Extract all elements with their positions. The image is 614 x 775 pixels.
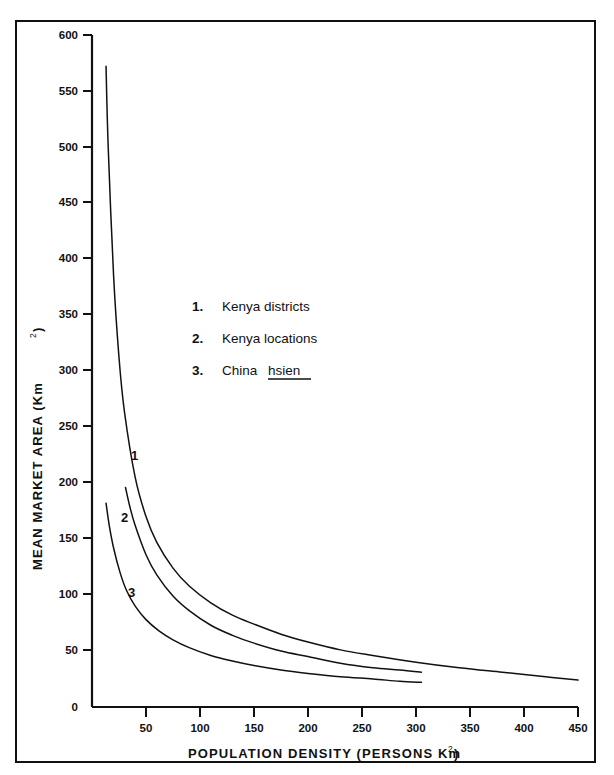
- x-axis-title: POPULATION DENSITY (PERSONS Km 2 ): [188, 744, 461, 761]
- curve-label-1: 1: [131, 448, 138, 463]
- x-tick-label: 450: [568, 722, 587, 734]
- x-tick-label: 100: [190, 722, 209, 734]
- x-axis-ticks: [146, 707, 578, 717]
- y-axis-title-tail: ): [30, 327, 45, 332]
- x-tick-label: 200: [298, 722, 317, 734]
- legend-label-3-plain: China: [222, 363, 258, 378]
- y-tick-label: 150: [59, 532, 78, 544]
- legend-number-1: 1.: [192, 299, 203, 314]
- curve-label-2: 2: [121, 510, 128, 525]
- y-tick-label: 600: [59, 29, 78, 41]
- y-tick-label: 500: [59, 141, 78, 153]
- legend-label-1: Kenya districts: [222, 299, 310, 314]
- legend-number-2: 2.: [192, 331, 203, 346]
- y-tick-label: 200: [59, 476, 78, 488]
- y-tick-label: 50: [65, 644, 78, 656]
- curve-kenya-districts: [106, 66, 578, 680]
- legend-number-3: 3.: [192, 363, 203, 378]
- y-tick-label: 100: [59, 588, 78, 600]
- x-axis-tick-labels: 50 100 150 200 250 300 350 400 450: [140, 722, 588, 734]
- y-axis-title-text: MEAN MARKET AREA (Km: [30, 382, 45, 570]
- y-axis-title-superscript: 2: [28, 333, 38, 338]
- x-tick-label: 350: [460, 722, 479, 734]
- x-axis-title-superscript: 2: [448, 744, 453, 754]
- legend-label-2: Kenya locations: [222, 331, 318, 346]
- y-tick-label: 250: [59, 420, 78, 432]
- y-axis-ticks: [83, 35, 92, 650]
- legend-label-3-underlined: hsien: [268, 363, 300, 378]
- x-tick-label: 300: [406, 722, 425, 734]
- figure-container: 600 550 500 450 400 350 300 250 200 150 …: [0, 0, 614, 775]
- y-tick-label: 300: [59, 364, 78, 376]
- legend: 1. Kenya districts 2. Kenya locations 3.…: [192, 299, 318, 379]
- y-tick-label: 450: [59, 196, 78, 208]
- x-tick-label: 150: [244, 722, 263, 734]
- y-tick-label: 0: [72, 701, 78, 713]
- x-tick-label: 400: [514, 722, 533, 734]
- y-tick-label: 400: [59, 252, 78, 264]
- y-axis-tick-labels: 600 550 500 450 400 350 300 250 200 150 …: [59, 29, 78, 713]
- curve-label-3: 3: [128, 585, 135, 600]
- x-axis-title-text: POPULATION DENSITY (PERSONS Km: [188, 746, 461, 761]
- curve-kenya-locations: [125, 487, 421, 672]
- x-axis-title-tail: ): [454, 746, 459, 761]
- chart-svg: 600 550 500 450 400 350 300 250 200 150 …: [0, 0, 614, 775]
- x-tick-label: 50: [140, 722, 153, 734]
- y-tick-label: 350: [59, 308, 78, 320]
- y-tick-label: 550: [59, 85, 78, 97]
- y-axis-title: MEAN MARKET AREA (Km 2 ): [28, 327, 45, 570]
- x-tick-label: 250: [352, 722, 371, 734]
